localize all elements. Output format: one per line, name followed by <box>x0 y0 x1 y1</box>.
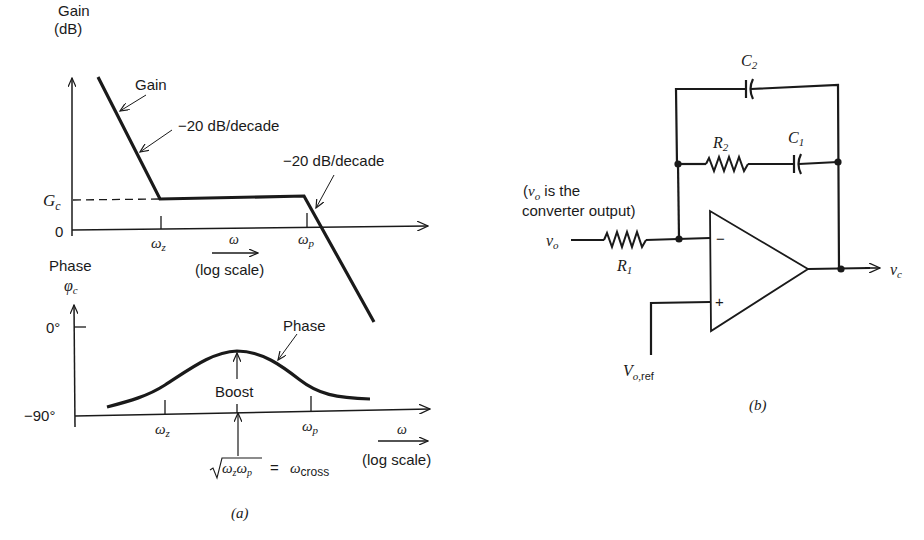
caption-a: (a) <box>231 505 249 522</box>
vo-input-label: vo <box>546 232 559 251</box>
phase-y-axis <box>74 305 75 427</box>
minus-90-deg-label: −90° <box>24 407 55 424</box>
c2-label: C2 <box>741 52 758 71</box>
sqrt-argument: ωzωp <box>222 460 252 478</box>
junction-node-top-right <box>834 158 841 165</box>
junction-node-output <box>837 265 844 272</box>
phase-plot: Phase φc 0° −90° ωz ωp Phase Boost <box>24 257 431 479</box>
omega-cross: ωcross <box>290 460 329 479</box>
zero-deg-label: 0° <box>46 319 60 336</box>
crossover-formula: ωzωp = ωcross <box>210 458 329 479</box>
gc-dashed-line <box>73 199 160 200</box>
vc-output-label: vc <box>890 261 902 280</box>
gain-leader-arrow <box>120 95 146 111</box>
omega-p-label: ωp <box>298 231 315 249</box>
slope-label-low: −20 dB/decade <box>178 117 279 134</box>
input-note-line1: (vo is the <box>523 182 580 202</box>
r2-resistor-icon <box>706 157 748 171</box>
omega-z-label: ωz <box>151 235 167 253</box>
slope-high-leader-arrow <box>316 175 334 208</box>
opamp-triangle-icon <box>710 211 808 331</box>
phase-x-axis <box>75 409 430 416</box>
r1-label: R1 <box>616 257 632 276</box>
junction-node-inverting <box>675 235 682 242</box>
phase-curve-label: Phase <box>283 317 326 334</box>
noninverting-input-wire <box>651 302 710 355</box>
r2-label: R2 <box>712 134 729 153</box>
c1-label: C1 <box>788 129 804 148</box>
slope-low-leader-arrow <box>140 130 172 152</box>
gain-axis-unit: (dB) <box>54 20 82 37</box>
c2-left-wire <box>676 89 746 165</box>
equals-sign: = <box>270 459 279 476</box>
junction-node-top-left <box>674 160 681 167</box>
feedback-left-wire <box>678 164 679 238</box>
phase-axis-label: Phase <box>49 257 92 274</box>
omega-axis-label: ω <box>229 232 239 247</box>
figure-canvas: Gain (dB) Gc 0 ωz ωp ω (log scale) Gain … <box>0 0 924 540</box>
gc-label: Gc <box>43 191 61 213</box>
slope-label-high: −20 dB/decade <box>283 152 384 169</box>
phase-log-scale-label: (log scale) <box>362 451 431 468</box>
gain-plot: Gain (dB) Gc 0 ωz ωp ω (log scale) Gain … <box>43 2 428 322</box>
opamp-minus-sign: − <box>716 230 725 247</box>
c1-right-wire <box>799 162 838 164</box>
phase-axis-symbol: φc <box>64 277 78 296</box>
r1-resistor-icon <box>604 232 646 247</box>
caption-b: (b) <box>749 397 767 414</box>
phase-omega-z-label: ωz <box>155 421 171 439</box>
boost-label: Boost <box>215 383 254 400</box>
input-note-line2: converter output) <box>522 202 635 219</box>
gain-x-axis <box>72 226 428 230</box>
phase-omega-p-label: ωp <box>302 418 319 436</box>
gain-axis-label: Gain <box>58 2 90 19</box>
phase-omega-axis-label: ω <box>397 422 407 437</box>
opamp-plus-sign: + <box>715 293 724 310</box>
phase-leader-arrow <box>278 334 297 360</box>
vref-label: Vo,ref <box>623 362 655 382</box>
log-scale-label: (log scale) <box>195 261 264 278</box>
gain-curve-label: Gain <box>135 76 167 93</box>
zero-label: 0 <box>55 223 63 240</box>
